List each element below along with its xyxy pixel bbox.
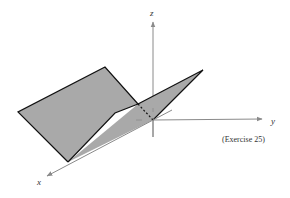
x-axis-label: x [36, 177, 41, 187]
y-axis-label: y [270, 116, 275, 126]
y-axis [153, 119, 262, 120]
diagram: z y x (Exercise 25) [0, 0, 290, 198]
z-axis-label: z [149, 8, 154, 18]
caption: (Exercise 25) [222, 135, 265, 144]
